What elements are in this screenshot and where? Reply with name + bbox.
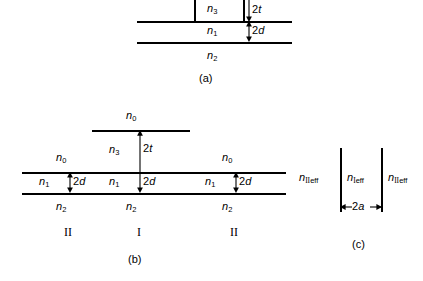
panel-b-caption: (b) [128,254,141,265]
panel-a-interface-n3-n1 [137,21,292,23]
panel-b-stack-3-interface-n1-n2 [188,193,286,195]
panel-b-stack-2-layer-label-n3: n3 [109,144,119,157]
panel-b-stack-3-layer-label-n2: n2 [222,201,232,214]
panel-b-stack-2-layer-label-n1: n1 [109,176,119,189]
figure-waveguide-effective-index: n3 n1 n2 2t 2d (a) [0,0,423,281]
panel-b-stack-1-layer-label-n0: n0 [56,152,66,165]
panel-a-caption: (a) [199,73,212,84]
panel-b-stack-3-layer-label-n1: n1 [205,176,215,189]
panel-b-stack-2-interface-n1-n2 [92,193,190,195]
panel-c-dimension-label-2a: 2a [352,201,364,212]
panel-c-region-label-left: nIIeff [299,172,318,185]
panel-c-region-label-center: nIeff [347,172,364,185]
panel-b-stack-1-dimension-label-2d: 2d [73,176,85,187]
panel-a-layer-label-n1: n1 [207,25,217,38]
panel-b-stack-1-layer-label-n1: n1 [39,176,49,189]
panel-a-layer-label-n2: n2 [207,50,217,63]
panel-b-stack-2-region-label: I [137,226,141,238]
panel-a-rib-left-wall [194,0,196,21]
panel-b-stack-2-dimension-label-2d: 2d [143,176,155,187]
panel-b-stack-2-layer-label-n0: n0 [126,110,136,123]
panel-b-stack-1-layer-label-n2: n2 [56,201,66,214]
panel-a-dimension-label-2d: 2d [252,25,264,36]
panel-c-region-label-right: nIIeff [388,172,407,185]
panel-b-stack-3-layer-label-n0: n0 [222,152,232,165]
panel-b-stack-2-dimension-label-2t: 2t [143,143,152,154]
panel-a-dimension-label-2t: 2t [252,4,261,15]
panel-a-interface-n1-n2 [137,42,292,44]
panel-b-stack-3-dimension-label-2d: 2d [239,176,251,187]
panel-a-layer-label-n3: n3 [207,3,217,16]
panel-b-stack-3-region-label: II [230,226,238,238]
panel-b-stack-2-layer-label-n2: n2 [126,201,136,214]
panel-c-caption: (c) [352,239,365,250]
panel-b-stack-1-region-label: II [64,226,72,238]
